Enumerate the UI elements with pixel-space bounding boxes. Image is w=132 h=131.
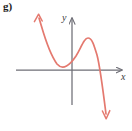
x-axis-label: x xyxy=(121,72,125,82)
part-label: g) xyxy=(3,1,12,12)
y-axis-label: y xyxy=(62,13,66,23)
graph-figure: g) y x xyxy=(0,0,132,131)
